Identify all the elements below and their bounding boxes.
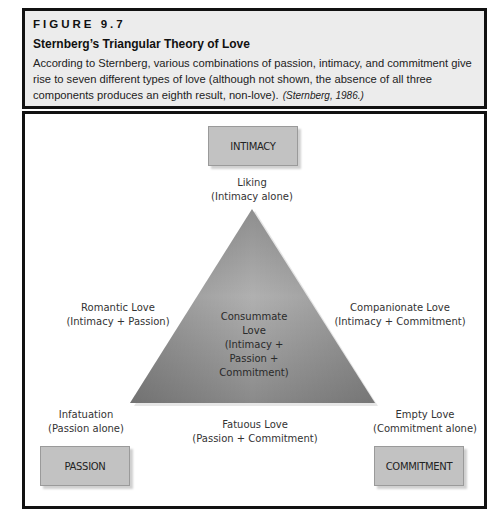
label-empty-love: Empty Love (Commitment alone) bbox=[370, 408, 480, 436]
component-commitment: COMMITMENT bbox=[374, 446, 464, 486]
empty-love-name: Empty Love bbox=[370, 408, 480, 422]
companionate-love-name: Companionate Love bbox=[332, 301, 468, 315]
consummate-line-1: Consummate bbox=[204, 310, 304, 324]
empty-love-detail: (Commitment alone) bbox=[370, 422, 480, 436]
companionate-love-detail: (Intimacy + Commitment) bbox=[332, 315, 468, 329]
label-infatuation: Infatuation (Passion alone) bbox=[36, 408, 136, 436]
consummate-line-4: Passion + bbox=[204, 352, 304, 366]
label-liking: Liking (Intimacy alone) bbox=[202, 176, 302, 204]
consummate-line-3: (Intimacy + bbox=[204, 338, 304, 352]
liking-detail: (Intimacy alone) bbox=[202, 190, 302, 204]
consummate-line-2: Love bbox=[204, 324, 304, 338]
fatuous-love-detail: (Passion + Commitment) bbox=[190, 432, 320, 446]
component-passion: PASSION bbox=[40, 446, 130, 486]
label-fatuous-love: Fatuous Love (Passion + Commitment) bbox=[190, 418, 320, 446]
component-intimacy: INTIMACY bbox=[208, 126, 298, 166]
infatuation-detail: (Passion alone) bbox=[36, 422, 136, 436]
label-companionate-love: Companionate Love (Intimacy + Commitment… bbox=[332, 301, 468, 329]
consummate-line-5: Commitment) bbox=[204, 366, 304, 380]
romantic-love-name: Romantic Love bbox=[60, 301, 176, 315]
romantic-love-detail: (Intimacy + Passion) bbox=[60, 315, 176, 329]
label-romantic-love: Romantic Love (Intimacy + Passion) bbox=[60, 301, 176, 329]
liking-name: Liking bbox=[202, 176, 302, 190]
infatuation-name: Infatuation bbox=[36, 408, 136, 422]
fatuous-love-name: Fatuous Love bbox=[190, 418, 320, 432]
label-consummate-love: Consummate Love (Intimacy + Passion + Co… bbox=[204, 310, 304, 380]
